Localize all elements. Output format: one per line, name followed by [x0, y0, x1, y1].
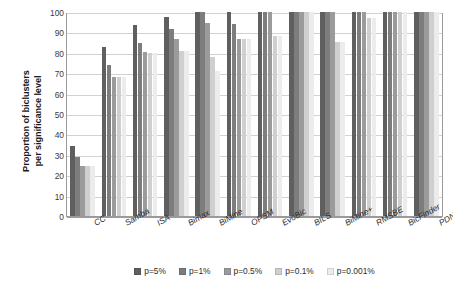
bar [273, 36, 278, 216]
x-axis-tick-label: BicFinder [406, 219, 411, 228]
legend-item[interactable]: p=1% [179, 266, 211, 276]
bar [122, 77, 127, 216]
bar [352, 12, 357, 216]
bar [325, 12, 330, 216]
bar [330, 12, 335, 216]
bar [80, 166, 85, 216]
bar [268, 12, 273, 216]
bar [75, 157, 80, 216]
legend-swatch [275, 268, 282, 275]
bar [320, 12, 325, 216]
bar [424, 12, 429, 216]
y-axis-tick-labels: 0102030405060708090100 [40, 13, 64, 217]
y-axis-tick-label: 30 [55, 151, 64, 161]
bar-group [255, 14, 286, 216]
bar [174, 39, 179, 216]
x-axis-tick-label: BiMine+ [343, 219, 348, 228]
bar [179, 51, 184, 216]
bar [148, 53, 153, 216]
y-axis-tick-label: 20 [55, 171, 64, 181]
bar [294, 12, 299, 216]
bar-group [411, 14, 442, 216]
x-axis-tick-label: Samba [123, 219, 128, 228]
bar-group [286, 14, 317, 216]
legend-item[interactable]: p=5% [134, 266, 166, 276]
bar [143, 52, 148, 216]
y-axis-tick-label: 90 [55, 28, 64, 38]
x-axis-tick-label: BiMine [217, 219, 222, 228]
y-axis-tick-label: 100 [50, 8, 64, 18]
bar [232, 24, 237, 216]
bar [362, 12, 367, 216]
bar [434, 12, 439, 216]
bar [138, 43, 143, 216]
bar [153, 53, 158, 216]
bar [237, 39, 242, 216]
bar [102, 47, 107, 216]
legend-swatch [179, 268, 186, 275]
bar [263, 12, 268, 216]
bar [299, 12, 304, 216]
bar [133, 25, 138, 216]
y-axis-tick-label: 50 [55, 110, 64, 120]
x-axis-tick-labels: CCSambaISABimaxBiMineOPSMEvoBicBILSBiMin… [66, 219, 443, 261]
bar-group [348, 14, 379, 216]
bar [393, 12, 398, 216]
bar [195, 12, 200, 216]
x-axis-tick-label: RMSBE [374, 219, 379, 228]
x-axis-tick-label: EvoBic [280, 219, 285, 228]
bar [117, 77, 122, 216]
bar [372, 18, 377, 216]
plot-area [66, 13, 443, 217]
bar [357, 12, 362, 216]
bar [200, 12, 205, 216]
x-axis-tick-label: OPSM [249, 219, 254, 228]
bar [107, 65, 112, 216]
bar [289, 12, 294, 216]
bar [90, 166, 95, 216]
legend-item[interactable]: p=0.1% [275, 266, 314, 276]
bar [429, 12, 434, 216]
bar-group [67, 14, 98, 216]
bar-group [223, 14, 254, 216]
bar [340, 42, 345, 216]
x-axis-tick-label: CC [92, 219, 97, 228]
bar [304, 12, 309, 216]
legend-item[interactable]: p=0.5% [224, 266, 263, 276]
bar [278, 36, 283, 216]
bar-group [317, 14, 348, 216]
bar [169, 29, 174, 216]
bar [403, 12, 408, 216]
bar-group [192, 14, 223, 216]
bar [367, 18, 372, 216]
legend-swatch [327, 268, 334, 275]
legend-label: p=0.1% [285, 266, 314, 276]
legend-label: p=1% [189, 266, 211, 276]
y-axis-tick-label: 10 [55, 192, 64, 202]
x-axis-tick-label: ISA [155, 219, 160, 228]
bar [242, 39, 247, 216]
bar [309, 12, 314, 216]
bar [184, 51, 189, 216]
legend-item[interactable]: p=0.001% [327, 266, 375, 276]
bar-group [161, 14, 192, 216]
y-axis-title-line1: Proportion of biclusters [20, 70, 32, 172]
bar [210, 57, 215, 216]
x-axis-tick-label: PDNS [437, 219, 442, 228]
bar-group [380, 14, 411, 216]
bar [419, 12, 424, 216]
bar [205, 23, 210, 216]
bar [112, 77, 117, 216]
bar [388, 12, 393, 216]
y-axis-tick-label: 60 [55, 90, 64, 100]
bar-groups [67, 14, 442, 216]
y-axis-tick-label: 70 [55, 69, 64, 79]
bar [414, 12, 419, 216]
bar-group [130, 14, 161, 216]
legend-label: p=5% [144, 266, 166, 276]
legend-label: p=0.5% [234, 266, 263, 276]
bar-group [98, 14, 129, 216]
y-axis-tick-label: 40 [55, 130, 64, 140]
bar [398, 12, 403, 216]
bar [258, 12, 263, 216]
